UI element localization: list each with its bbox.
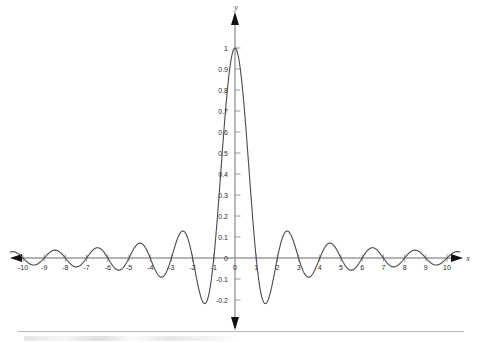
x-tick-label--9: -9 — [41, 264, 47, 271]
x-tick-label-8: 8 — [403, 264, 407, 271]
x-tick-label-5: 5 — [339, 264, 343, 271]
footer-faint-text — [24, 336, 234, 341]
x-tick-label-6: 6 — [360, 264, 364, 271]
y-tick-label-0.1: 0.1 — [218, 234, 228, 241]
y-tick-label--0.1: -0.1 — [216, 276, 228, 283]
x-tick-label-3: 3 — [297, 264, 301, 271]
x-tick-label-0: 0 — [233, 264, 237, 271]
y-tick-label-0.7: 0.7 — [218, 108, 228, 115]
y-tick-label-0.9: 0.9 — [218, 66, 228, 73]
x-tick-label--6: -6 — [105, 264, 111, 271]
plot-area: -10-9-8-7-6-5-4-3-2-1012345678910 -0.2-0… — [0, 0, 481, 343]
x-tick-label--5: -5 — [126, 264, 132, 271]
x-tick-label-9: 9 — [424, 264, 428, 271]
x-tick-label--7: -7 — [83, 264, 89, 271]
y-tick-label-0: 0 — [224, 255, 228, 262]
chart-page: -10-9-8-7-6-5-4-3-2-1012345678910 -0.2-0… — [0, 0, 481, 343]
footer-divider — [18, 331, 464, 332]
x-tick-label-4: 4 — [318, 264, 322, 271]
y-tick-label-0.4: 0.4 — [218, 171, 228, 178]
y-tick-label-1: 1 — [224, 45, 228, 52]
x-tick-label-10: 10 — [443, 264, 451, 271]
x-tick-label-7: 7 — [381, 264, 385, 271]
sinc-function-plot: -10-9-8-7-6-5-4-3-2-1012345678910 -0.2-0… — [0, 0, 481, 343]
plot-background — [0, 0, 481, 343]
y-tick-label-0.2: 0.2 — [218, 213, 228, 220]
y-tick-label-0.5: 0.5 — [218, 150, 228, 157]
x-tick-label--10: -10 — [18, 264, 28, 271]
x-tick-label--8: -8 — [62, 264, 68, 271]
y-tick-label--0.2: -0.2 — [216, 297, 228, 304]
x-axis-label: x — [465, 254, 470, 263]
x-tick-label--1: -1 — [211, 264, 217, 271]
y-axis-label: y — [233, 3, 238, 12]
